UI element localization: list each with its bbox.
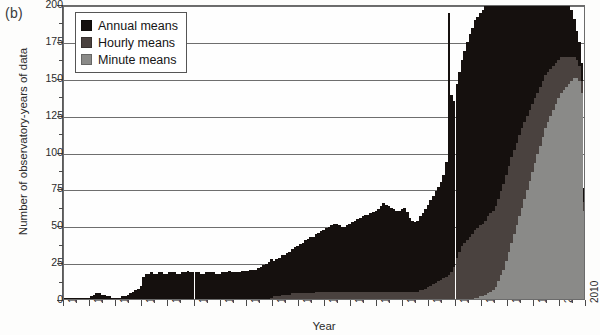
legend-swatch-icon (81, 37, 92, 48)
y-tick-label: 25 (17, 256, 63, 268)
y-tick-label: 50 (17, 219, 63, 231)
y-tick-label: 200 (17, 0, 63, 10)
x-tick-minor (363, 300, 364, 303)
x-tick (481, 300, 482, 306)
x-tick-minor (572, 300, 573, 303)
x-tick (402, 300, 403, 306)
x-tick-minor (259, 300, 260, 303)
x-tick-minor (389, 300, 390, 303)
x-tick-minor (207, 300, 208, 303)
legend-label: Annual means (98, 19, 178, 33)
x-tick (298, 300, 299, 306)
x-tick (350, 300, 351, 306)
legend-item: Minute means (81, 51, 178, 68)
x-tick-minor (285, 300, 286, 303)
bar-segment (583, 188, 585, 201)
x-tick-minor (468, 300, 469, 303)
x-tick (455, 300, 456, 306)
x-tick (376, 300, 377, 306)
x-tick-minor (441, 300, 442, 303)
y-tick-label: 75 (17, 182, 63, 194)
x-tick (533, 300, 534, 306)
x-tick-minor (337, 300, 338, 303)
legend-swatch-icon (81, 20, 92, 31)
legend-label: Hourly means (98, 36, 175, 50)
legend-item: Annual means (81, 17, 178, 34)
x-tick-minor (546, 300, 547, 303)
x-tick (559, 300, 560, 306)
x-tick-minor (311, 300, 312, 303)
bar-column (583, 188, 585, 299)
x-tick-minor (494, 300, 495, 303)
x-tick (220, 300, 221, 306)
x-tick-minor (128, 300, 129, 303)
x-tick (89, 300, 90, 306)
x-tick-label: 2010 (589, 281, 600, 303)
x-tick (324, 300, 325, 306)
x-tick (272, 300, 273, 306)
bar-segment (581, 63, 584, 81)
legend-item: Hourly means (81, 34, 178, 51)
x-tick (141, 300, 142, 306)
x-tick (246, 300, 247, 306)
y-tick-label: 125 (17, 109, 63, 121)
y-tick-label: 150 (17, 72, 63, 84)
x-axis-title: Year (63, 320, 585, 332)
x-tick (507, 300, 508, 306)
legend: Annual meansHourly meansMinute means (75, 12, 187, 73)
bar-segment (583, 211, 585, 300)
x-tick-minor (233, 300, 234, 303)
x-tick (115, 300, 116, 306)
x-tick (194, 300, 195, 306)
x-tick-minor (520, 300, 521, 303)
y-tick-label: 175 (17, 35, 63, 47)
x-tick-minor (154, 300, 155, 303)
y-axis-ticks: 0255075100125150175200 (0, 0, 63, 335)
x-tick (428, 300, 429, 306)
x-tick (63, 300, 64, 306)
bar-segment (581, 81, 584, 93)
legend-label: Minute means (98, 53, 177, 67)
x-tick-minor (415, 300, 416, 303)
legend-swatch-icon (81, 54, 92, 65)
x-tick (585, 300, 586, 306)
y-tick-label: 0 (17, 293, 63, 305)
bar-segment (583, 202, 585, 211)
x-tick-minor (180, 300, 181, 303)
x-tick (167, 300, 168, 306)
y-tick-label: 100 (17, 146, 63, 158)
x-tick-minor (102, 300, 103, 303)
x-tick-minor (76, 300, 77, 303)
